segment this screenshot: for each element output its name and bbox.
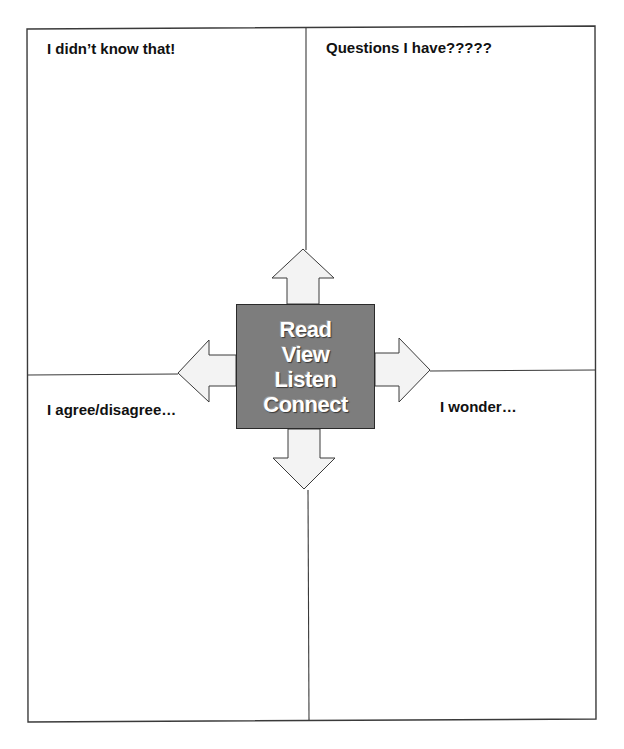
quadrant-label-questions: Questions I have????? bbox=[326, 39, 492, 56]
up-arrow-icon bbox=[272, 249, 334, 304]
four-square-worksheet: I didn’t know that! Questions I have????… bbox=[0, 0, 624, 749]
center-word-connect: Connect bbox=[263, 392, 348, 417]
center-word-view: View bbox=[282, 342, 330, 367]
quadrant-label-wonder: I wonder… bbox=[440, 398, 517, 415]
center-activity-box: Read View Listen Connect bbox=[236, 304, 375, 429]
quadrant-label-didnt-know: I didn’t know that! bbox=[47, 40, 175, 57]
left-arrow-icon bbox=[178, 340, 236, 402]
down-arrow-icon bbox=[273, 429, 335, 489]
center-word-read: Read bbox=[280, 317, 332, 342]
vertical-divider-bottom bbox=[308, 490, 309, 720]
right-arrow-icon bbox=[375, 338, 430, 402]
horizontal-divider-right bbox=[430, 370, 596, 371]
center-word-listen: Listen bbox=[275, 367, 337, 392]
quadrant-label-agree-disagree: I agree/disagree… bbox=[47, 401, 176, 418]
horizontal-divider-left bbox=[28, 374, 178, 375]
